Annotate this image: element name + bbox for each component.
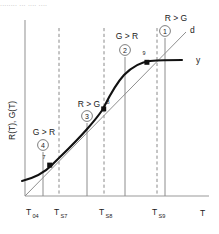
x-tick-label-3-sub: S9	[159, 213, 166, 219]
data-point-7	[47, 163, 52, 168]
figure-container: ........ ... .... .... 7 8 9 y d R > G 1	[0, 0, 219, 234]
data-point-9	[144, 60, 149, 65]
region-marker-1: 1	[163, 28, 167, 35]
y-axis-label: R(T), G(T)	[7, 101, 17, 140]
data-point-label-7: 7	[43, 154, 46, 160]
data-point-label-9: 9	[143, 50, 146, 56]
x-tick-label-2-base: T	[99, 207, 104, 217]
x-tick-label-2-sub: S8	[106, 213, 113, 219]
x-tick-label-0-sub: 04	[33, 213, 39, 219]
region-label-4: G > R	[33, 127, 55, 137]
x-tick-label-1-sub: S7	[61, 213, 68, 219]
region-label-2: G > R	[116, 31, 138, 41]
curve-label-d: d	[190, 25, 195, 35]
data-point-8	[101, 106, 106, 111]
data-point-label-8: 8	[107, 99, 110, 105]
region-marker-4: 4	[41, 142, 45, 149]
region-marker-3: 3	[85, 113, 89, 120]
x-tick-label-1-base: T	[54, 207, 59, 217]
x-axis-label: T	[200, 208, 205, 218]
region-label-1: R > G	[165, 13, 187, 23]
plot-svg: 7 8 9 y d R > G 1 G > R 2 R > G 3 G > R …	[0, 0, 219, 234]
diagonal-line-d	[25, 32, 186, 196]
sigmoid-curve-y	[22, 60, 182, 181]
curve-label-y: y	[196, 55, 201, 65]
x-tick-label-0-base: T	[26, 207, 31, 217]
region-label-3: R > G	[78, 99, 100, 109]
x-tick-label-3-base: T	[152, 207, 157, 217]
region-marker-2: 2	[123, 47, 127, 54]
